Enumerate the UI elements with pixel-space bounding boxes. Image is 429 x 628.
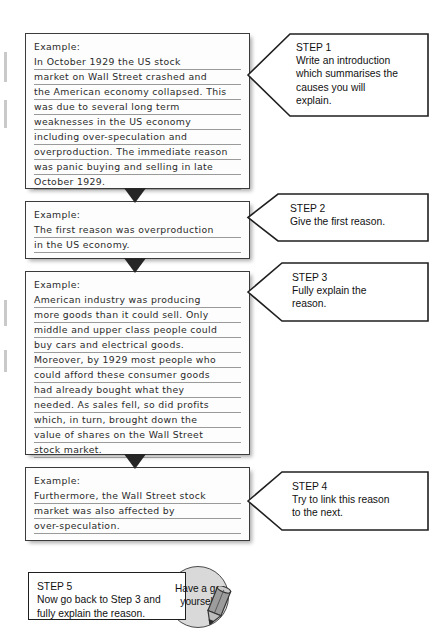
example-line: which, in turn, brought down the: [34, 413, 241, 428]
flow-arrow-1: [124, 188, 146, 203]
example-heading: Example:: [34, 208, 241, 222]
example-line: American industry was producing: [34, 293, 241, 308]
callout-step-1: STEP 1 Write an introduction which summa…: [248, 33, 429, 117]
scan-artifact-left-lower: [4, 300, 7, 326]
example-line: needed. As sales fell, so did profits: [34, 398, 241, 413]
callout-step-2-text: STEP 2 Give the first reason.: [290, 202, 385, 228]
example-box-3: Example: American industry was producing…: [25, 271, 250, 455]
step-label: STEP 2: [290, 202, 385, 215]
example-line: market on Wall Street crashed and: [34, 70, 241, 85]
example-line: over-speculation.: [34, 519, 241, 534]
step-label: STEP 4: [292, 480, 389, 493]
example-line: market was also affected by: [34, 504, 241, 519]
scan-artifact-left-top: [4, 52, 7, 82]
callout-step-4: STEP 4 Try to link this reason to the ne…: [248, 471, 429, 531]
example-line: the American economy collapsed. This: [34, 85, 241, 100]
callout-step-1-text: STEP 1 Write an introduction which summa…: [296, 41, 398, 107]
step-desc-line: Now go back to Step 3 and: [37, 593, 177, 606]
flow-arrow-3: [124, 454, 146, 469]
example-heading: Example:: [34, 278, 241, 292]
example-box-1: Example: In October 1929 the US stock ma…: [25, 33, 250, 189]
step-desc-line: explain.: [296, 94, 398, 107]
step-desc-line: Write an introduction: [296, 54, 398, 67]
step-desc-line: Fully explain the: [292, 284, 366, 297]
example-line: weaknesses in the US economy: [34, 115, 241, 130]
step-label: STEP 1: [296, 41, 398, 54]
example-line: value of shares on the Wall Street: [34, 428, 241, 443]
step-desc-line: to the next.: [292, 506, 389, 519]
example-line: more goods than it could sell. Only: [34, 308, 241, 323]
step-desc-line: which summarises the: [296, 67, 398, 80]
scan-artifact-left-mid: [4, 100, 7, 128]
example-heading: Example:: [34, 40, 241, 54]
example-line: overproduction. The immediate reason: [34, 145, 241, 160]
example-box-4: Example: Furthermore, the Wall Street st…: [25, 467, 250, 541]
step-label: STEP 3: [292, 271, 366, 284]
flow-arrow-2: [124, 258, 146, 273]
example-line: was due to several long term: [34, 100, 241, 115]
step-desc-line: reason.: [292, 297, 366, 310]
step-desc-line: fully explain the reason.: [37, 607, 177, 620]
example-line: in the US economy.: [34, 238, 241, 253]
example-line: Furthermore, the Wall Street stock: [34, 489, 241, 504]
callout-step-3-text: STEP 3 Fully explain the reason.: [292, 271, 366, 311]
step-label: STEP 5: [37, 580, 177, 593]
example-line: The first reason was overproduction: [34, 223, 241, 238]
callout-step-4-text: STEP 4 Try to link this reason to the ne…: [292, 480, 389, 520]
example-line: including over-speculation and: [34, 130, 241, 145]
example-line: middle and upper class people could: [34, 323, 241, 338]
pencil-icon: [201, 586, 235, 628]
step-desc-line: Try to link this reason: [292, 493, 389, 506]
step-desc-line: causes you will: [296, 81, 398, 94]
step-desc-line: Give the first reason.: [290, 215, 385, 228]
example-line: Moreover, by 1929 most people who: [34, 353, 241, 368]
example-box-2: Example: The first reason was overproduc…: [25, 201, 250, 259]
worksheet-canvas: Example: In October 1929 the US stock ma…: [0, 0, 429, 628]
example-line: could afford these consumer goods: [34, 368, 241, 383]
example-line: was panic buying and selling in late: [34, 160, 241, 175]
example-line: buy cars and electrical goods.: [34, 338, 241, 353]
example-line: In October 1929 the US stock: [34, 55, 241, 70]
callout-step-2: STEP 2 Give the first reason.: [248, 193, 429, 242]
example-heading: Example:: [34, 474, 241, 488]
callout-step-3: STEP 3 Fully explain the reason.: [248, 262, 429, 322]
scan-artifact-left-bottom: [4, 350, 7, 372]
example-line: had already bought what they: [34, 383, 241, 398]
